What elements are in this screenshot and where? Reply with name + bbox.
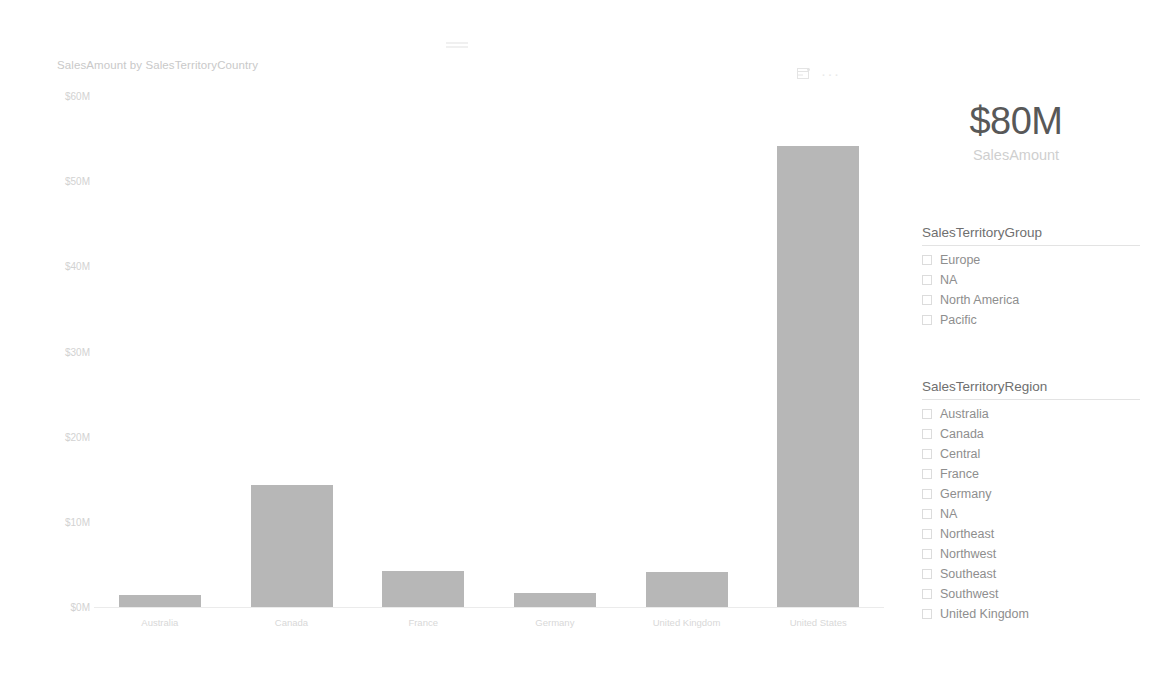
x-axis-line (94, 607, 884, 608)
bar-slot (489, 96, 621, 607)
bar[interactable] (646, 572, 728, 607)
kpi-value: $80M (900, 100, 1132, 142)
y-axis-tick-label: $40M (40, 261, 90, 272)
chart-title: SalesAmount by SalesTerritoryCountry (57, 58, 870, 72)
bar-slot (226, 96, 358, 607)
checkbox-icon[interactable] (922, 255, 932, 265)
slicer-item[interactable]: France (922, 464, 1140, 484)
slicer-item-label: Australia (940, 404, 989, 424)
bar-slot (621, 96, 753, 607)
y-axis: $0M$10M$20M$30M$40M$50M$60M (40, 22, 90, 657)
bar-slot (94, 96, 226, 607)
bar-slot (752, 96, 884, 607)
y-axis-tick-label: $20M (40, 431, 90, 442)
slicer-item[interactable]: United Kingdom (922, 604, 1140, 624)
checkbox-icon[interactable] (922, 529, 932, 539)
slicer-item[interactable]: Southeast (922, 564, 1140, 584)
slicer-item-label: NA (940, 270, 957, 290)
checkbox-icon[interactable] (922, 489, 932, 499)
bar-series (94, 96, 884, 607)
slicer-sales-territory-region[interactable]: SalesTerritoryRegion AustraliaCanadaCent… (922, 378, 1140, 624)
checkbox-icon[interactable] (922, 295, 932, 305)
bar-chart-visual[interactable]: SalesAmount by SalesTerritoryCountry ···… (0, 22, 890, 657)
checkbox-icon[interactable] (922, 589, 932, 599)
checkbox-icon[interactable] (922, 315, 932, 325)
slicer-item[interactable]: Pacific (922, 310, 1140, 330)
checkbox-icon[interactable] (922, 469, 932, 479)
x-axis-tick-label: Germany (489, 614, 621, 634)
slicer-item[interactable]: NA (922, 270, 1140, 290)
bar[interactable] (119, 595, 201, 607)
slicer-item[interactable]: Australia (922, 404, 1140, 424)
slicer-title: SalesTerritoryGroup (922, 224, 1140, 246)
right-rail: $80M SalesAmount SalesTerritoryGroup Eur… (900, 0, 1161, 681)
x-axis-tick-label: United States (752, 614, 884, 634)
checkbox-icon[interactable] (922, 409, 932, 419)
slicer-item[interactable]: Northeast (922, 524, 1140, 544)
checkbox-icon[interactable] (922, 449, 932, 459)
slicer-item-label: Pacific (940, 310, 977, 330)
drill-mode-icon[interactable] (446, 42, 468, 54)
x-axis-tick-label: France (357, 614, 489, 634)
checkbox-icon[interactable] (922, 429, 932, 439)
more-options-icon[interactable]: ··· (821, 66, 841, 81)
slicer-item-label: Northwest (940, 544, 996, 564)
focus-mode-icon[interactable] (797, 68, 811, 80)
x-axis-tick-label: Australia (94, 614, 226, 634)
drill-line (446, 42, 468, 44)
slicer-item[interactable]: Canada (922, 424, 1140, 444)
slicer-sales-territory-group[interactable]: SalesTerritoryGroup EuropeNANorth Americ… (922, 224, 1140, 330)
slicer-item[interactable]: North America (922, 290, 1140, 310)
slicer-item-label: North America (940, 290, 1019, 310)
checkbox-icon[interactable] (922, 509, 932, 519)
checkbox-icon[interactable] (922, 569, 932, 579)
slicer-item[interactable]: NA (922, 504, 1140, 524)
x-axis-tick-label: Canada (226, 614, 358, 634)
slicer-item-label: Central (940, 444, 980, 464)
checkbox-icon[interactable] (922, 609, 932, 619)
slicer-item[interactable]: Central (922, 444, 1140, 464)
y-axis-tick-label: $60M (40, 91, 90, 102)
slicer-title: SalesTerritoryRegion (922, 378, 1140, 400)
slicer-item-list: AustraliaCanadaCentralFranceGermanyNANor… (922, 404, 1140, 624)
slicer-item-label: Germany (940, 484, 991, 504)
drill-line (446, 46, 468, 48)
slicer-item[interactable]: Germany (922, 484, 1140, 504)
slicer-item[interactable]: Southwest (922, 584, 1140, 604)
slicer-item-label: Northeast (940, 524, 994, 544)
kpi-card[interactable]: $80M SalesAmount (900, 100, 1132, 166)
bar[interactable] (251, 485, 333, 607)
bar[interactable] (382, 571, 464, 607)
y-axis-tick-label: $10M (40, 516, 90, 527)
kpi-label: SalesAmount (900, 144, 1132, 166)
y-axis-tick-label: $50M (40, 176, 90, 187)
slicer-item-label: Southwest (940, 584, 998, 604)
slicer-item-label: Canada (940, 424, 984, 444)
y-axis-tick-label: $0M (40, 602, 90, 613)
slicer-item-label: Southeast (940, 564, 996, 584)
checkbox-icon[interactable] (922, 275, 932, 285)
report-canvas: SalesAmount by SalesTerritoryCountry ···… (0, 0, 1161, 681)
chart-header-icons: ··· (797, 66, 841, 81)
slicer-item[interactable]: Northwest (922, 544, 1140, 564)
slicer-item-label: France (940, 464, 979, 484)
slicer-item-label: NA (940, 504, 957, 524)
bar-slot (357, 96, 489, 607)
x-axis: AustraliaCanadaFranceGermanyUnited Kingd… (94, 614, 884, 634)
bar[interactable] (514, 593, 596, 607)
x-axis-tick-label: United Kingdom (621, 614, 753, 634)
y-axis-tick-label: $30M (40, 346, 90, 357)
checkbox-icon[interactable] (922, 549, 932, 559)
slicer-item[interactable]: Europe (922, 250, 1140, 270)
bar[interactable] (777, 146, 859, 607)
slicer-item-list: EuropeNANorth AmericaPacific (922, 250, 1140, 330)
chart-header: SalesAmount by SalesTerritoryCountry ··· (57, 58, 870, 76)
slicer-item-label: United Kingdom (940, 604, 1029, 624)
slicer-item-label: Europe (940, 250, 980, 270)
